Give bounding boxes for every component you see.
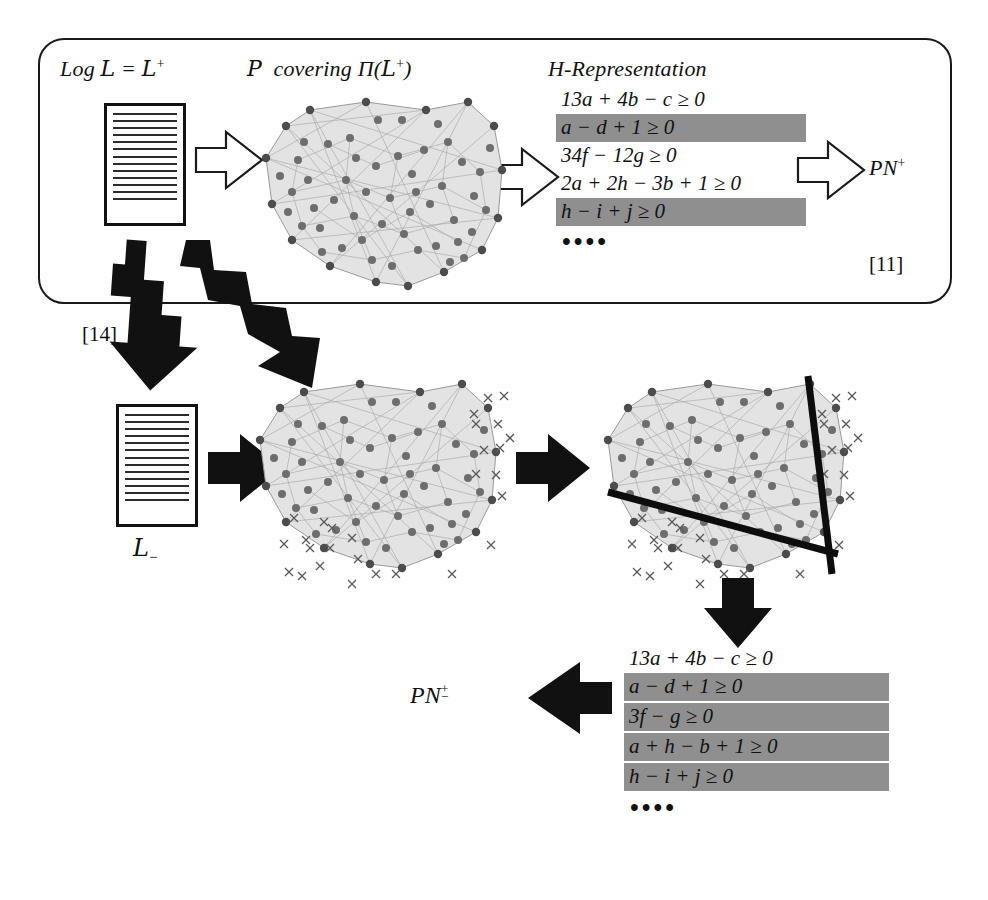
solid-arrow-polytope-to-separated bbox=[516, 434, 590, 502]
polytope-point-cloud-1 bbox=[262, 98, 506, 290]
solid-arrow-left-to-pn-result bbox=[528, 662, 612, 734]
hollow-arrow-log-to-polytope bbox=[196, 132, 262, 188]
polytope-with-separating-hyperplanes bbox=[604, 376, 862, 588]
polytope-with-negative-points bbox=[256, 380, 514, 588]
zigzag-arrow-right bbox=[180, 240, 320, 388]
figure-canvas: Log L = L+ P covering Π(L+) H-Representa… bbox=[0, 0, 988, 900]
diagram-graphics-layer bbox=[0, 0, 988, 900]
solid-arrow-down-to-results bbox=[704, 578, 772, 648]
hollow-arrow-hrep-to-pn bbox=[798, 142, 864, 198]
